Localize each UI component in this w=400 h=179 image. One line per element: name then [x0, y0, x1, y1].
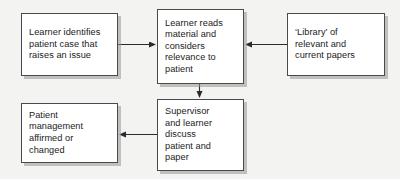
- node-learner-identifies: Learner identifies patient case that rai…: [21, 13, 118, 76]
- flowchart-diagram: Learner identifies patient case that rai…: [0, 0, 400, 179]
- node-patient-management-label: Patient management affirmed or changed: [22, 110, 87, 156]
- node-patient-management: Patient management affirmed or changed: [21, 103, 118, 163]
- node-library: ‘Library’ of relevant and current papers: [287, 13, 385, 76]
- node-learner-reads: Learner reads material and considers rel…: [157, 9, 244, 84]
- node-supervisor: Supervisor and learner discuss patient a…: [157, 99, 244, 171]
- node-library-label: ‘Library’ of relevant and current papers: [288, 27, 359, 62]
- node-learner-identifies-label: Learner identifies patient case that rai…: [22, 27, 104, 62]
- node-learner-reads-label: Learner reads material and considers rel…: [158, 18, 227, 76]
- node-supervisor-label: Supervisor and learner discuss patient a…: [158, 106, 216, 164]
